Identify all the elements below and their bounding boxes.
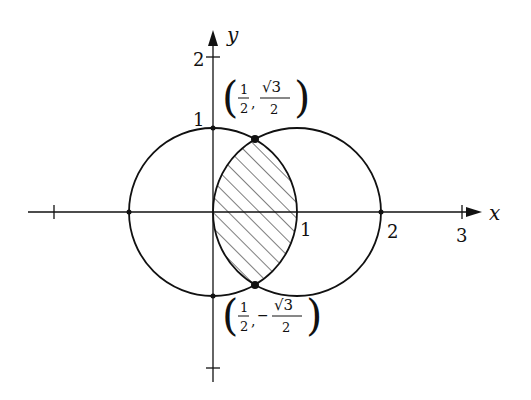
- x-axis-arrow-icon: [466, 207, 482, 217]
- x-tick-label-3: 3: [456, 225, 467, 246]
- point-neg1-0: [127, 210, 132, 215]
- y-axis-arrow-icon: [208, 30, 218, 46]
- x-axis-label: x: [489, 201, 500, 225]
- left-paren: (: [222, 73, 238, 122]
- upper-point-label: ( 1 2 , √3 2 ): [222, 73, 310, 122]
- svg-text:,: ,: [251, 95, 255, 111]
- right-paren: ): [294, 73, 310, 122]
- diagram-canvas: x y 1 2 3 1 2 ( 1 2 , √3 2 ) ( 1 2 , − √…: [0, 0, 531, 400]
- y-tick-label-2: 2: [193, 49, 204, 70]
- right-paren: ): [306, 291, 322, 340]
- svg-text:√3: √3: [274, 296, 293, 314]
- svg-text:2: 2: [282, 320, 290, 335]
- left-paren: (: [222, 291, 238, 340]
- upper-intersection-point: [251, 135, 259, 143]
- y-axis-label: y: [226, 23, 239, 47]
- point-2-0: [379, 210, 384, 215]
- svg-text:2: 2: [240, 101, 248, 116]
- svg-text:√3: √3: [262, 78, 281, 96]
- x-tick-label-1: 1: [300, 219, 311, 240]
- svg-text:−: −: [257, 307, 269, 323]
- lower-point-label: ( 1 2 , − √3 2 ): [222, 291, 322, 340]
- x-tick-label-2: 2: [387, 221, 398, 242]
- lower-intersection-point: [251, 281, 259, 289]
- point-0-neg1: [211, 294, 216, 299]
- svg-text:,: ,: [251, 313, 255, 329]
- point-0-1: [211, 126, 216, 131]
- svg-text:2: 2: [270, 102, 278, 117]
- svg-text:1: 1: [240, 82, 248, 97]
- svg-text:1: 1: [240, 300, 248, 315]
- svg-text:2: 2: [240, 319, 248, 334]
- y-tick-label-1: 1: [193, 109, 204, 130]
